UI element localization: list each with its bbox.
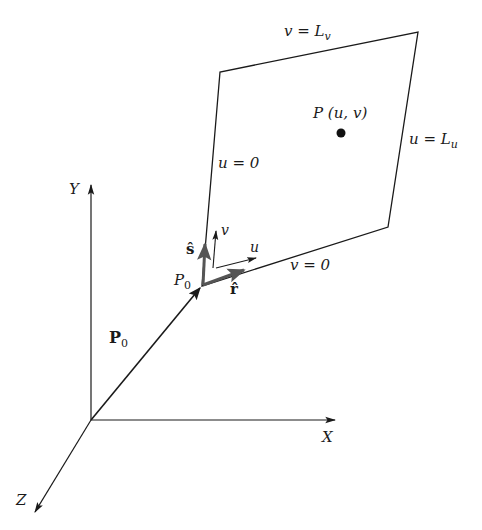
p0-point-label: P0 (173, 271, 191, 292)
s-hat-label: ŝ (186, 240, 194, 258)
edge-label-top: v = Lv (284, 22, 332, 43)
edge-label-bottom: v = 0 (290, 256, 331, 274)
edge-label-left: u = 0 (218, 154, 260, 172)
parametric-plane-diagram: X Y Z v = Lv u = Lu u = 0 v = 0 P (u, v)… (0, 0, 482, 530)
s-hat-unit-vector (203, 244, 205, 285)
x-axis-label: X (321, 428, 334, 446)
point-p: P (u, v) (312, 104, 367, 138)
y-axis-label: Y (69, 180, 81, 198)
diagram-canvas: X Y Z v = Lv u = Lu u = 0 v = 0 P (u, v)… (0, 0, 482, 530)
coordinate-axes: X Y Z (15, 180, 335, 512)
parametric-plane: v = Lv u = Lu u = 0 v = 0 (202, 22, 458, 286)
r-hat-label: r̂ (230, 280, 239, 298)
z-axis-label: Z (15, 491, 27, 509)
p0-vector-label: P0 (109, 328, 128, 350)
u-direction-arrow (216, 258, 256, 268)
p0-position-vector (91, 288, 200, 420)
edge-label-right: u = Lu (409, 130, 458, 151)
point-p-dot (337, 129, 346, 138)
v-direction-label: v (221, 222, 229, 238)
vectors: P0 P0 ŝ r̂ v u (91, 222, 259, 420)
u-direction-label: u (250, 239, 259, 255)
point-p-label: P (u, v) (312, 104, 367, 122)
z-axis (35, 420, 91, 512)
v-direction-arrow (213, 231, 216, 268)
